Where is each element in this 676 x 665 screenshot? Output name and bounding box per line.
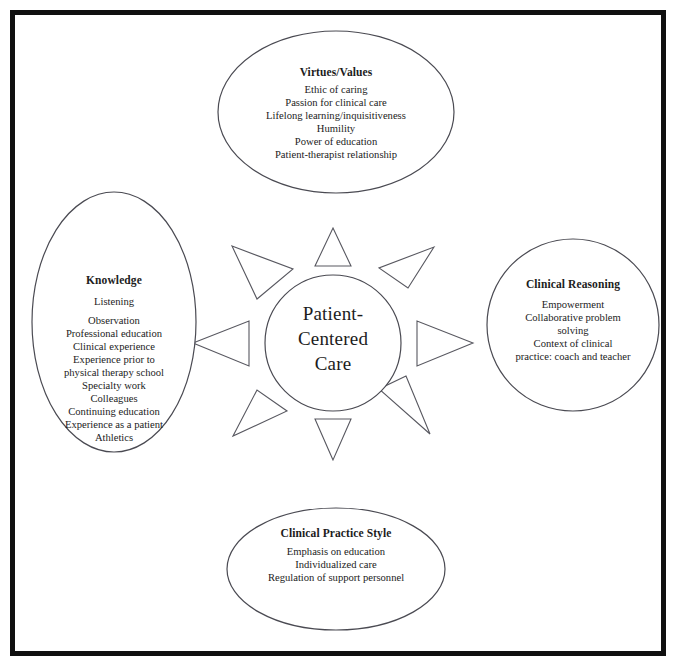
node-knowledge-item-3: Professional education	[66, 328, 163, 339]
node-clinical-reasoning-title: Clinical Reasoning	[526, 278, 620, 291]
hub-line-1: Patient-	[303, 303, 364, 324]
node-clinical-reasoning[interactable]: Clinical Reasoning Empowerment Collabora…	[487, 239, 659, 411]
node-clinical-reasoning-item-3: solving	[557, 325, 589, 336]
node-knowledge-item-5: Experience prior to	[73, 354, 155, 365]
node-knowledge-item-10: Experience as a patient	[65, 419, 163, 430]
arrow-southwest	[233, 390, 287, 436]
node-virtues-values-item-5: Power of education	[295, 136, 378, 147]
node-knowledge-item-1: Listening	[94, 296, 135, 307]
node-knowledge-item-2: Observation	[88, 315, 140, 326]
node-virtues-values[interactable]: Virtues/Values Ethic of caring Passion f…	[218, 31, 454, 193]
arrow-northwest	[232, 246, 293, 299]
node-knowledge-item-6: physical therapy school	[64, 367, 164, 378]
arrow-west	[193, 321, 249, 366]
hub-line-2: Centered	[298, 328, 368, 349]
arrow-east	[417, 321, 473, 366]
node-virtues-values-item-2: Passion for clinical care	[285, 97, 387, 108]
concept-map-diagram: Patient- Centered Care Virtues/Values Et…	[0, 0, 676, 665]
node-clinical-reasoning-item-1: Empowerment	[542, 299, 604, 310]
node-knowledge-item-9: Continuing education	[68, 406, 160, 417]
figure-frame: Patient- Centered Care Virtues/Values Et…	[0, 0, 676, 665]
node-virtues-values-item-1: Ethic of caring	[305, 84, 369, 95]
node-clinical-practice-style-item-2: Individualized care	[295, 559, 377, 570]
node-knowledge-item-11: Athletics	[95, 432, 133, 443]
node-knowledge-title: Knowledge	[86, 274, 142, 287]
arrow-northeast	[379, 247, 434, 288]
hub-line-3: Care	[315, 353, 352, 374]
node-virtues-values-item-4: Humility	[317, 123, 356, 134]
node-clinical-practice-style-title: Clinical Practice Style	[281, 527, 392, 540]
node-virtues-values-item-6: Patient-therapist relationship	[275, 149, 397, 160]
node-knowledge-item-8: Colleagues	[90, 393, 137, 404]
node-clinical-practice-style-item-3: Regulation of support personnel	[268, 572, 404, 583]
arrow-north	[315, 228, 351, 266]
node-clinical-reasoning-item-5: practice: coach and teacher	[516, 351, 631, 362]
node-clinical-reasoning-item-2: Collaborative problem	[525, 312, 621, 323]
node-knowledge[interactable]: Knowledge Listening Observation Professi…	[32, 192, 196, 452]
node-virtues-values-item-3: Lifelong learning/inquisitiveness	[266, 110, 406, 121]
node-knowledge-item-4: Clinical experience	[73, 341, 155, 352]
hub-node[interactable]: Patient- Centered Care	[265, 275, 401, 411]
node-clinical-practice-style[interactable]: Clinical Practice Style Emphasis on educ…	[227, 508, 445, 630]
node-clinical-reasoning-item-4: Context of clinical	[534, 338, 613, 349]
node-knowledge-item-7: Specialty work	[82, 380, 147, 391]
node-virtues-values-title: Virtues/Values	[300, 66, 373, 78]
arrow-south	[315, 419, 351, 460]
node-clinical-practice-style-item-1: Emphasis on education	[287, 546, 386, 557]
